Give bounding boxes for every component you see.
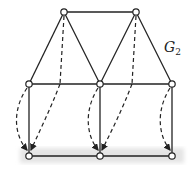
node [26,153,32,159]
dashed-edges [16,16,170,150]
node [133,9,139,15]
node [97,153,103,159]
node [61,9,67,15]
node [97,81,103,87]
node [26,81,32,87]
node [169,153,175,159]
graph-label: G2 [164,39,181,57]
node [169,81,175,87]
graph-diagram: G2 [0,0,188,172]
